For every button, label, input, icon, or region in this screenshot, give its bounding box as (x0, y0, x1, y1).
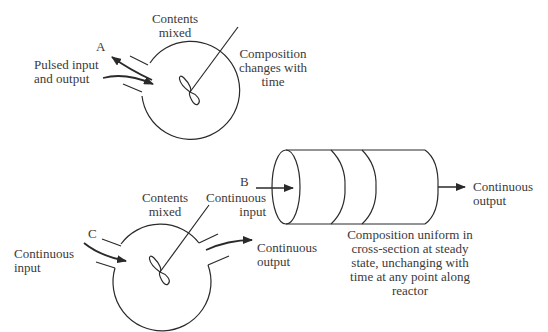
letter-c: C (88, 227, 97, 241)
cross-section-1 (331, 150, 345, 224)
nozzle-c-in-upper (102, 239, 121, 246)
output-arrow-c (206, 240, 252, 250)
contents-mixed-label-c: Contents mixed (135, 191, 195, 219)
nozzle-lower-a (123, 84, 142, 92)
nozzle-upper-a (130, 56, 148, 65)
nozzle-c-out-lower (208, 256, 229, 265)
cstr-reactor-c (84, 205, 252, 331)
composition-changes-label: Composition changes with time (238, 47, 308, 89)
pulsed-flow-label: Pulsed input and output (34, 58, 99, 86)
vessel-c-bottom (113, 265, 211, 331)
continuous-output-label-b: Continuous output (473, 180, 533, 208)
tube-inlet-end (272, 150, 300, 224)
continuous-input-label-c: Continuous input (14, 247, 74, 275)
impeller-icon-c (149, 256, 169, 285)
letter-a: A (96, 40, 105, 54)
batch-reactor-a (103, 27, 240, 139)
nozzle-c-in-lower (96, 262, 115, 268)
continuous-input-label-b: Continuous input (200, 191, 266, 219)
nozzle-c-out-upper (199, 234, 218, 243)
plug-flow-reactor-b (256, 150, 465, 224)
letter-b: B (240, 175, 249, 189)
cross-section-2 (362, 150, 376, 224)
continuous-output-label-c: Continuous output (257, 241, 317, 269)
impeller-icon-a (179, 76, 199, 105)
composition-uniform-label: Composition uniform in cross-section at … (345, 228, 475, 298)
tube-outlet-end (425, 150, 438, 224)
contents-mixed-label-a: Contents mixed (145, 12, 205, 40)
